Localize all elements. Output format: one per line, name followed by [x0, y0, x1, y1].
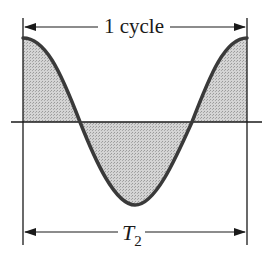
bottom-dimension-label: T2 — [122, 220, 142, 249]
left-arrowhead-icon — [24, 23, 36, 31]
top-dimension-label: 1 cycle — [104, 14, 164, 38]
period-subscript: 2 — [134, 233, 142, 249]
waveform-diagram: 1 cycle T2 — [0, 0, 271, 262]
right-arrowhead-icon — [234, 228, 246, 236]
left-arrowhead-icon — [24, 228, 36, 236]
right-arrowhead-icon — [234, 23, 246, 31]
